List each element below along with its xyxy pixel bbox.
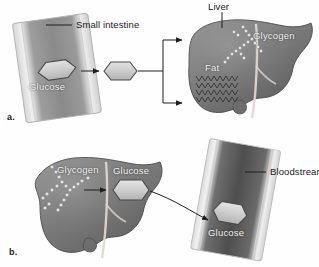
bloodstream-tube-icon xyxy=(190,138,280,261)
panel-b-letter: b. xyxy=(9,247,17,257)
panel-b: b. Glycogen Glucose Bloodstream Glucose xyxy=(0,134,319,267)
label-bloodstream: Bloodstream xyxy=(270,166,319,177)
label-glucose-blood: Glucose xyxy=(208,227,244,238)
panel-a: a. Small intestine Glucose Liver Glycoge… xyxy=(0,0,319,135)
label-glucose-intestine: Glucose xyxy=(29,81,65,92)
label-liver: Liver xyxy=(208,1,229,12)
panel-a-letter: a. xyxy=(7,112,15,122)
panel-b-artwork xyxy=(0,134,319,267)
label-glycogen-b: Glycogen xyxy=(57,164,99,175)
branching-arrow-to-liver xyxy=(138,40,182,103)
label-fat: Fat xyxy=(205,62,219,73)
label-small-intestine: Small intestine xyxy=(76,19,139,30)
label-glucose-liver: Glucose xyxy=(113,165,149,176)
label-glycogen-a: Glycogen xyxy=(253,30,295,41)
glucose-hexagon-icon-liver xyxy=(113,180,149,200)
panel-a-artwork xyxy=(0,0,319,135)
figure-glucose-metabolism: a. Small intestine Glucose Liver Glycoge… xyxy=(0,0,319,267)
glucose-hexagon-icon-transport xyxy=(104,62,137,80)
